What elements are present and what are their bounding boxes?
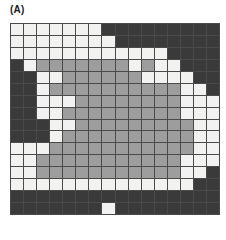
grid-cell-r5-c11 [142,72,154,83]
grid-cell-r4-c4 [50,60,62,71]
grid-cell-r9-c11 [142,120,154,131]
grid-cell-r11-c2 [24,143,36,154]
grid-cell-r8-c10 [129,108,141,119]
grid-cell-r7-c14 [181,96,193,107]
grid-cell-r16-c9 [116,203,128,214]
grid-cell-r2-c11 [142,36,154,47]
grid-cell-r6-c1 [11,84,23,95]
grid-cell-r8-c9 [116,108,128,119]
grid-cell-r10-c1 [11,131,23,142]
grid-cell-r2-c8 [102,36,114,47]
grid-cell-r15-c11 [142,191,154,202]
grid-cell-r9-c16 [207,120,219,131]
grid-cell-r4-c2 [24,60,36,71]
grid-cell-r16-c6 [76,203,88,214]
grid-cell-r9-c15 [194,120,206,131]
grid-cell-r12-c5 [63,155,75,166]
grid-cell-r1-c11 [142,24,154,35]
grid-cell-r10-c3 [37,131,49,142]
grid-cell-r15-c4 [50,191,62,202]
grid-cell-r6-c16 [207,84,219,95]
grid-cell-r5-c14 [181,72,193,83]
grid-cell-r16-c5 [63,203,75,214]
grid-cell-r14-c7 [89,179,101,190]
grid-cell-r14-c12 [155,179,167,190]
grid-cell-r13-c13 [168,167,180,178]
grid-cell-r4-c10 [129,60,141,71]
grid-cell-r14-c11 [142,179,154,190]
grid-cell-r10-c6 [76,131,88,142]
grid-cell-r1-c13 [168,24,180,35]
grid-cell-r14-c13 [168,179,180,190]
grid-cell-r4-c14 [181,60,193,71]
cell-grid [10,23,220,215]
grid-cell-r9-c6 [76,120,88,131]
grid-cell-r3-c8 [102,48,114,59]
grid-cell-r7-c13 [168,96,180,107]
grid-cell-r12-c16 [207,155,219,166]
grid-cell-r16-c1 [11,203,23,214]
grid-cell-r3-c14 [181,48,193,59]
grid-cell-r14-c4 [50,179,62,190]
grid-cell-r7-c2 [24,96,36,107]
grid-cell-r9-c1 [11,120,23,131]
grid-cell-r8-c14 [181,108,193,119]
grid-cell-r13-c3 [37,167,49,178]
grid-cell-r3-c12 [155,48,167,59]
grid-cell-r5-c1 [11,72,23,83]
grid-cell-r16-c8 [102,203,114,214]
grid-container [10,23,220,215]
grid-cell-r9-c7 [89,120,101,131]
grid-cell-r14-c8 [102,179,114,190]
grid-cell-r5-c15 [194,72,206,83]
grid-cell-r6-c8 [102,84,114,95]
grid-cell-r13-c16 [207,167,219,178]
grid-cell-r11-c15 [194,143,206,154]
grid-cell-r15-c10 [129,191,141,202]
grid-cell-r16-c12 [155,203,167,214]
grid-cell-r11-c1 [11,143,23,154]
grid-cell-r16-c2 [24,203,36,214]
grid-cell-r5-c8 [102,72,114,83]
grid-cell-r12-c2 [24,155,36,166]
grid-cell-r13-c15 [194,167,206,178]
grid-cell-r3-c10 [129,48,141,59]
grid-cell-r8-c12 [155,108,167,119]
grid-cell-r5-c3 [37,72,49,83]
grid-cell-r8-c1 [11,108,23,119]
grid-cell-r2-c4 [50,36,62,47]
grid-cell-r1-c14 [181,24,193,35]
grid-cell-r2-c12 [155,36,167,47]
grid-cell-r7-c8 [102,96,114,107]
grid-cell-r4-c8 [102,60,114,71]
grid-cell-r4-c5 [63,60,75,71]
grid-cell-r13-c12 [155,167,167,178]
grid-cell-r6-c3 [37,84,49,95]
grid-cell-r6-c9 [116,84,128,95]
grid-cell-r5-c7 [89,72,101,83]
grid-cell-r1-c10 [129,24,141,35]
grid-cell-r12-c11 [142,155,154,166]
grid-cell-r5-c12 [155,72,167,83]
grid-cell-r14-c3 [37,179,49,190]
grid-cell-r2-c7 [89,36,101,47]
grid-cell-r16-c4 [50,203,62,214]
grid-cell-r13-c14 [181,167,193,178]
grid-cell-r10-c9 [116,131,128,142]
grid-cell-r14-c5 [63,179,75,190]
grid-cell-r15-c13 [168,191,180,202]
grid-cell-r5-c6 [76,72,88,83]
grid-cell-r12-c7 [89,155,101,166]
grid-cell-r11-c14 [181,143,193,154]
grid-cell-r13-c4 [50,167,62,178]
grid-cell-r13-c8 [102,167,114,178]
grid-cell-r1-c1 [11,24,23,35]
grid-cell-r13-c7 [89,167,101,178]
grid-cell-r7-c7 [89,96,101,107]
grid-cell-r7-c11 [142,96,154,107]
grid-cell-r14-c15 [194,179,206,190]
grid-cell-r3-c16 [207,48,219,59]
grid-cell-r15-c15 [194,191,206,202]
grid-cell-r11-c3 [37,143,49,154]
grid-cell-r7-c15 [194,96,206,107]
